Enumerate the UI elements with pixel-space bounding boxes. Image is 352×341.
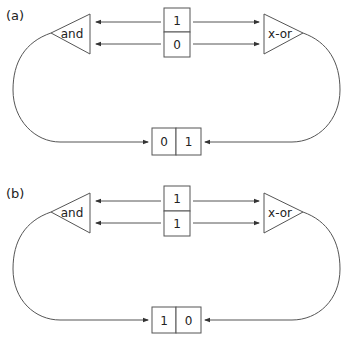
output-bit-right: 1 [185,135,193,149]
input-register: 1 1 [164,186,190,236]
panel-a: (a) and x-or 1 0 0 1 [6,8,340,155]
xor-gate: x-or [264,14,303,54]
input-register: 1 0 [164,8,190,57]
half-adder-diagram: (a) and x-or 1 0 0 1 [0,0,352,341]
and-gate-label: and [61,206,84,220]
output-bit-left: 1 [160,314,168,328]
output-bit-left: 0 [160,135,168,149]
input-bit-top: 1 [173,14,181,28]
xor-gate-label: x-or [268,206,292,220]
and-gate-label: and [61,27,84,41]
and-gate: and [51,14,90,54]
input-bit-top: 1 [173,192,181,206]
panel-label: (b) [6,186,24,201]
output-register: 0 1 [152,128,201,155]
panel-b: (b) and x-or 1 1 1 0 [6,186,340,333]
input-bit-bottom: 1 [173,217,181,231]
and-gate: and [51,193,90,233]
output-register: 1 0 [152,307,201,333]
panel-label: (a) [6,8,24,23]
xor-gate: x-or [264,193,303,233]
xor-gate-label: x-or [268,27,292,41]
input-bit-bottom: 0 [173,38,181,52]
output-bit-right: 0 [185,314,193,328]
